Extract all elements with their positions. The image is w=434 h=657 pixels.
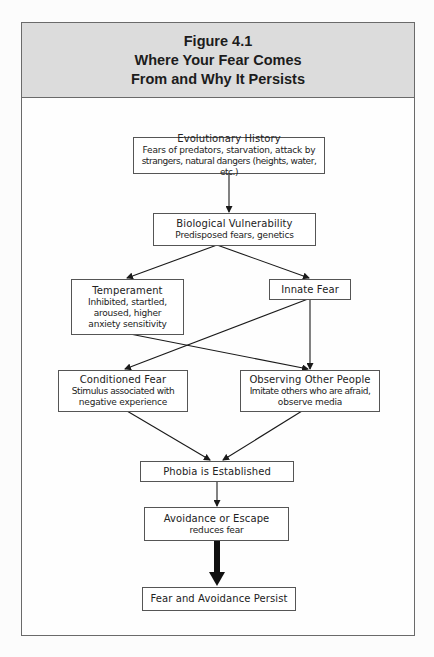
node-desc: Imitate others who are afraid, [250,386,371,397]
node-evolutionary-history: Evolutionary History Fears of predators,… [133,137,325,174]
node-title: Biological Vulnerability [176,218,292,230]
node-desc: anxiety sensitivity [88,319,166,330]
node-conditioned-fear: Conditioned Fear Stimulus associated wit… [58,370,188,412]
node-title: Fear and Avoidance Persist [150,593,287,605]
node-desc: negative experience [79,397,167,408]
node-desc: Stimulus associated with [72,386,174,397]
node-phobia-established: Phobia is Established [140,461,294,482]
node-title: Temperament [92,285,162,297]
node-avoidance-escape: Avoidance or Escape reduces fear [144,507,289,541]
node-temperament: Temperament Inhibited, startled, aroused… [71,279,184,335]
figure-header: Figure 4.1 Where Your Fear Comes From an… [22,23,414,98]
node-title: Innate Fear [281,284,339,296]
figure-title-line1: Where Your Fear Comes [134,51,301,70]
node-desc: Inhibited, startled, [88,297,167,308]
node-observing-other-people: Observing Other People Imitate others wh… [240,370,380,412]
node-biological-vulnerability: Biological Vulnerability Predisposed fea… [153,213,316,246]
node-desc: aroused, higher [94,308,162,319]
node-title: Avoidance or Escape [164,513,270,525]
node-title: Conditioned Fear [80,374,167,386]
node-desc: observe media [278,397,342,408]
node-desc: Predisposed fears, genetics [175,230,293,241]
node-desc: reduces fear [189,525,243,536]
node-desc: strangers, natural dangers (heights, wat… [134,156,324,178]
node-title: Evolutionary History [177,133,281,145]
figure-title-line2: From and Why It Persists [131,70,305,89]
figure-label: Figure 4.1 [184,32,253,51]
node-title: Observing Other People [249,374,370,386]
node-title: Phobia is Established [163,466,271,478]
node-fear-avoidance-persist: Fear and Avoidance Persist [142,587,296,611]
node-desc: Fears of predators, starvation, attack b… [143,145,316,156]
node-innate-fear: Innate Fear [269,279,351,300]
